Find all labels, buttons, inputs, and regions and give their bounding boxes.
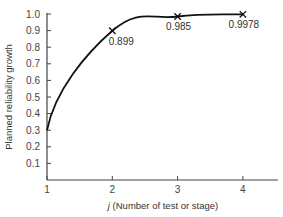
- y-tick-label: 0.4: [26, 108, 40, 119]
- y-tick-label: 0.2: [26, 141, 40, 152]
- x-tick-label: 1: [44, 184, 50, 195]
- y-tick-label: 0.1: [26, 158, 40, 169]
- data-point-label: 0.9978: [229, 19, 260, 30]
- y-tick-label: 0.3: [26, 125, 40, 136]
- y-tick-label: 0.8: [26, 42, 40, 53]
- x-tick-label: 3: [175, 184, 181, 195]
- x-tick-label: 2: [110, 184, 116, 195]
- data-labels: 0.8990.9850.9978: [109, 19, 260, 46]
- y-tick-label: 0.6: [26, 75, 40, 86]
- x-axis-ticks: 1234: [44, 176, 246, 195]
- y-tick-label: 0.7: [26, 58, 40, 69]
- y-tick-label: 1.0: [26, 9, 40, 20]
- x-axis-title-rest: (Number of test or stage): [110, 200, 218, 211]
- x-tick-label: 4: [240, 184, 246, 195]
- y-tick-label: 0.9: [26, 25, 40, 36]
- x-axis-title: j (Number of test or stage): [106, 200, 218, 211]
- reliability-growth-chart: 0.10.20.30.40.50.60.70.80.91.0 1234 0.89…: [0, 0, 283, 217]
- y-axis-title: Planned reliability growth: [3, 44, 14, 150]
- y-tick-label: 0.5: [26, 92, 40, 103]
- data-point-label: 0.899: [109, 36, 134, 47]
- growth-curve: [47, 14, 243, 130]
- data-point-label: 0.985: [166, 21, 191, 32]
